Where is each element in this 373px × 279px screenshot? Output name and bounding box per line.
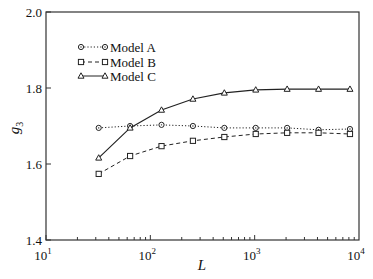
x-tick-label: 101 bbox=[34, 246, 52, 263]
square-marker-icon bbox=[102, 59, 107, 64]
legend-label: Model B bbox=[110, 55, 156, 70]
y-axis-label: g3 bbox=[6, 122, 25, 135]
legend: Model AModel BModel C bbox=[78, 40, 156, 84]
legend-item-model-a: Model A bbox=[78, 40, 156, 55]
series-model-c bbox=[96, 86, 353, 160]
circle-marker-dot bbox=[255, 127, 256, 128]
square-marker-icon bbox=[190, 138, 195, 143]
series-model-a bbox=[96, 122, 352, 132]
circle-marker-dot bbox=[98, 127, 99, 128]
circle-marker-dot bbox=[349, 128, 350, 129]
axes: 1.41.61.82.0101102103104 bbox=[26, 5, 366, 263]
y-tick-label: 2.0 bbox=[26, 5, 42, 20]
square-marker-icon bbox=[253, 131, 258, 136]
square-marker-icon bbox=[128, 153, 133, 158]
y-tick-label: 1.8 bbox=[26, 81, 42, 96]
legend-label: Model A bbox=[110, 40, 156, 55]
square-marker-icon bbox=[96, 171, 101, 176]
circle-marker-dot bbox=[80, 46, 81, 47]
legend-item-model-c: Model C bbox=[78, 69, 156, 84]
circle-marker-dot bbox=[192, 125, 193, 126]
x-tick-label: 104 bbox=[347, 246, 365, 263]
data-series bbox=[96, 86, 353, 177]
square-marker-icon bbox=[285, 130, 290, 135]
square-marker-icon bbox=[78, 59, 83, 64]
y-tick-label: 1.4 bbox=[26, 233, 43, 248]
y-axis-label-subscript: 3 bbox=[14, 122, 25, 127]
circle-marker-dot bbox=[161, 124, 162, 125]
x-tick-label: 102 bbox=[139, 246, 157, 263]
line-chart: 1.41.61.82.0101102103104 Model AModel BM… bbox=[0, 0, 373, 279]
x-tick-label: 103 bbox=[243, 246, 261, 263]
square-marker-icon bbox=[347, 131, 352, 136]
square-marker-icon bbox=[316, 130, 321, 135]
series-model-b bbox=[96, 130, 352, 176]
y-tick-label: 1.6 bbox=[26, 157, 43, 172]
circle-marker-dot bbox=[224, 127, 225, 128]
square-marker-icon bbox=[222, 134, 227, 139]
circle-marker-dot bbox=[286, 127, 287, 128]
plot-frame bbox=[46, 12, 359, 240]
series-line bbox=[99, 89, 350, 158]
x-axis-label: L bbox=[197, 257, 206, 273]
legend-label: Model C bbox=[110, 69, 156, 84]
legend-item-model-b: Model B bbox=[78, 55, 156, 70]
square-marker-icon bbox=[159, 144, 164, 149]
circle-marker-dot bbox=[104, 46, 105, 47]
